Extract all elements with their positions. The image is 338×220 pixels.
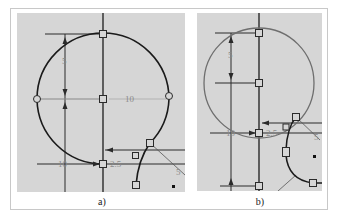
arrowhead-icon <box>63 102 68 109</box>
marker-dot <box>313 155 316 158</box>
arc-dimension-line <box>278 175 296 191</box>
control-point-top <box>100 31 107 38</box>
arrowhead-icon <box>262 121 269 126</box>
dim-label-vertical: 5 <box>62 56 67 66</box>
dim-label-left-offset: 10 <box>226 128 236 138</box>
marker-dot <box>172 185 175 188</box>
control-point-center <box>100 96 107 103</box>
arrowhead-icon <box>229 73 234 80</box>
panel-caption-a: a) <box>82 196 122 207</box>
dim-label-slanted: 5 <box>176 167 181 177</box>
dim-label-left-offset: 10 <box>58 159 68 169</box>
control-point-tangent <box>293 114 300 121</box>
control-point-mid <box>283 148 290 157</box>
control-point-offset <box>133 153 139 159</box>
control-point-offset <box>283 124 289 130</box>
control-point-bottom <box>100 161 107 168</box>
control-point-center <box>256 80 263 87</box>
control-point-end <box>310 180 317 187</box>
control-point-end <box>133 182 140 189</box>
dim-label-small-offset: 2.5 <box>110 159 122 169</box>
control-point-tangent <box>147 140 154 147</box>
arrowhead-icon <box>93 162 100 167</box>
arrowhead-icon <box>63 37 68 44</box>
sketch-panel-a: 5 10 10 2.5 5 <box>17 13 185 192</box>
control-point-lower <box>256 183 263 190</box>
arrowhead-icon <box>63 89 68 96</box>
control-point-bottom <box>256 130 263 137</box>
arrowhead-icon <box>106 148 113 153</box>
dim-label-vertical: 5 <box>228 50 233 60</box>
sketch-canvas-a: 5 10 10 2.5 5 <box>17 13 185 192</box>
arrowhead-icon <box>229 178 234 185</box>
control-point-top <box>256 30 263 37</box>
circle-point-right <box>166 93 173 100</box>
dim-label-small-offset: 2.5 <box>266 128 278 138</box>
sketch-canvas-b: 5 10 2.5 5 <box>197 13 322 191</box>
dim-label-radius: 10 <box>125 94 135 104</box>
arrowhead-icon <box>249 131 256 136</box>
circle-arc-lower-left <box>37 99 103 164</box>
circle-point-left <box>34 96 41 103</box>
sketch-panel-b: 5 10 2.5 5 <box>197 13 322 191</box>
panel-caption-b: b) <box>240 196 280 207</box>
dim-label-slanted: 5 <box>314 132 319 142</box>
